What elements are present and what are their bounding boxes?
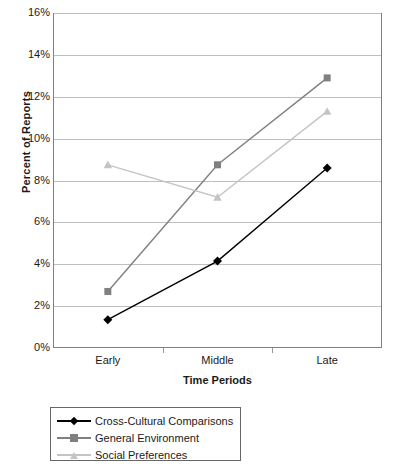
y-axis-tick-label: 8% [6, 175, 50, 186]
x-axis-tick-label: Late [277, 354, 377, 366]
gridline [54, 13, 381, 14]
legend-square-icon [57, 432, 91, 444]
gridline [54, 97, 381, 98]
x-axis-title: Time Periods [53, 374, 382, 386]
x-axis-tick-label: Middle [168, 354, 268, 366]
legend-diamond-icon [57, 415, 91, 427]
legend-triangle-icon [57, 449, 91, 461]
y-axis-tick-label: 4% [6, 258, 50, 269]
y-axis-tick-label: 6% [6, 216, 50, 227]
y-axis-tick-label: 12% [6, 91, 50, 102]
plot-area [53, 13, 382, 348]
y-axis-tick-label: 16% [6, 7, 50, 18]
legend-label: Cross-Cultural Comparisons [91, 415, 233, 427]
legend-item[interactable]: General Environment [57, 430, 240, 446]
gridline [54, 181, 381, 182]
legend-label: General Environment [91, 432, 199, 444]
x-axis-tick-label: Early [58, 354, 158, 366]
x-axis-tickmark [272, 348, 273, 353]
gridline [54, 55, 381, 56]
y-axis-tick-label: 10% [6, 133, 50, 144]
line-chart: Percent of Reports 0%2%4%6%8%10%12%14%16… [0, 0, 406, 468]
legend-item[interactable]: Cross-Cultural Comparisons [57, 413, 240, 429]
legend: Cross-Cultural ComparisonsGeneral Enviro… [50, 407, 241, 461]
gridline [54, 264, 381, 265]
y-axis-tick-label: 0% [6, 342, 50, 353]
y-axis-tick-labels: 0%2%4%6%8%10%12%14%16% [2, 0, 50, 360]
gridline [54, 306, 381, 307]
y-axis-tick-label: 14% [6, 49, 50, 60]
legend-label: Social Preferences [91, 449, 187, 461]
y-axis-tick-label: 2% [6, 300, 50, 311]
legend-item[interactable]: Social Preferences [57, 447, 240, 463]
gridline [54, 139, 381, 140]
x-axis-tickmark [163, 348, 164, 353]
gridline [54, 222, 381, 223]
